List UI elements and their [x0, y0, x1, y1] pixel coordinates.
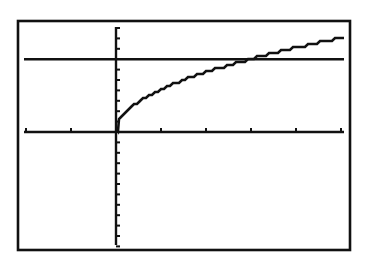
calculator-graph-screen: [0, 0, 369, 276]
screen-frame: [18, 21, 350, 250]
graph-canvas: [0, 0, 369, 276]
plotted-functions: [24, 38, 344, 131]
axis-ticks: [26, 28, 341, 246]
function-curve-y1: [116, 38, 344, 131]
